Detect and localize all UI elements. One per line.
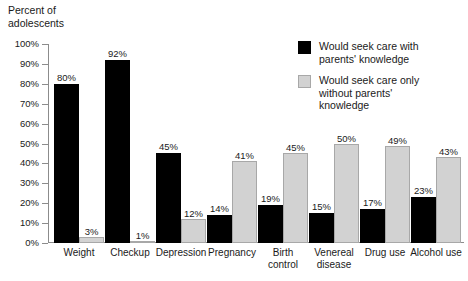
y-tick-mark [42,144,48,145]
bar[interactable]: 19% [258,205,283,243]
bar[interactable]: 3% [79,237,104,243]
bar-value-label: 41% [235,151,254,161]
bar[interactable]: 80% [54,84,79,243]
bar[interactable]: 45% [283,153,308,243]
y-tick-label: 100% [15,39,39,49]
bar[interactable]: 14% [207,215,232,243]
bar[interactable]: 92% [105,60,130,243]
y-tick-label: 30% [20,178,39,188]
bar-value-label: 15% [312,202,331,212]
legend-swatch-black-icon [298,41,311,54]
y-tick-label: 20% [20,198,39,208]
legend-item-without-parents-knowledge: Would seek care only without parents' kn… [298,74,419,112]
bar-value-label: 1% [136,231,150,241]
bar-value-label: 45% [286,143,305,153]
bar-value-label: 12% [184,209,203,219]
bar-value-label: 43% [439,147,458,157]
y-tick-label: 80% [20,79,39,89]
y-tick-label: 40% [20,158,39,168]
bar-value-label: 50% [337,134,356,144]
bar[interactable]: 49% [385,146,410,244]
legend-label-with-parents-knowledge: Would seek care with parents' knowledge [319,40,419,65]
bar-value-label: 92% [108,49,127,59]
y-tick-mark [42,163,48,164]
bar[interactable]: 1% [130,241,155,243]
y-tick-label: 60% [20,119,39,129]
bar-group: 14%41% [207,44,257,243]
bar-value-label: 49% [388,136,407,146]
y-tick-mark [42,183,48,184]
y-tick-mark [42,243,48,244]
y-tick-mark [42,223,48,224]
bar-value-label: 3% [85,227,99,237]
bar[interactable]: 50% [334,144,359,244]
legend-label-without-parents-knowledge: Would seek care only without parents' kn… [319,74,419,112]
y-tick-mark [42,104,48,105]
y-axis-line [48,44,49,243]
bar-group: 92%1% [105,44,155,243]
bar-value-label: 80% [57,73,76,83]
y-tick-label: 70% [20,99,39,109]
x-axis-category-label: Alcohol use [404,247,468,259]
y-tick-label: 10% [20,218,39,228]
bar-value-label: 45% [159,142,178,152]
chart-legend: Would seek care with parents' knowledge … [298,40,419,121]
y-axis-title: Percent of adolescents [8,4,64,29]
y-tick-mark [42,124,48,125]
y-tick-label: 0% [25,238,39,248]
y-tick-mark [42,44,48,45]
bar[interactable]: 45% [156,153,181,243]
bar[interactable]: 17% [360,209,385,243]
bar-group: 45%12% [156,44,206,243]
legend-item-with-parents-knowledge: Would seek care with parents' knowledge [298,40,419,65]
bar-value-label: 17% [363,198,382,208]
bar-value-label: 14% [210,204,229,214]
y-tick-label: 90% [20,59,39,69]
bar[interactable]: 15% [309,213,334,243]
y-tick-mark [42,203,48,204]
bar-value-label: 23% [414,186,433,196]
bar[interactable]: 43% [436,157,461,243]
bar[interactable]: 12% [181,219,206,243]
bar[interactable]: 23% [411,197,436,243]
bar[interactable]: 41% [232,161,257,243]
y-tick-mark [42,64,48,65]
legend-swatch-gray-icon [298,75,311,88]
bar-group: 80%3% [54,44,104,243]
y-tick-mark [42,84,48,85]
y-tick-label: 50% [20,139,39,149]
bar-value-label: 19% [261,194,280,204]
